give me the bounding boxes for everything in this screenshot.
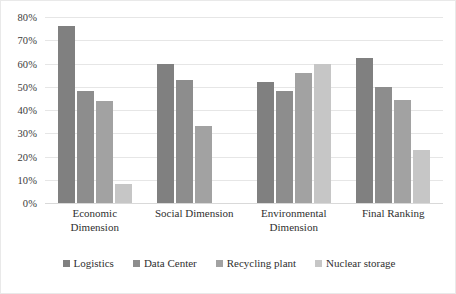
- bar[interactable]: [77, 91, 94, 203]
- legend-swatch-icon: [133, 260, 140, 267]
- legend-item[interactable]: Nuclear storage: [315, 257, 395, 269]
- legend-label: Logistics: [74, 257, 114, 269]
- bar[interactable]: [115, 184, 132, 203]
- legend-item[interactable]: Recycling plant: [216, 257, 296, 269]
- x-axis-category-label: Environmental Dimension: [244, 206, 344, 234]
- x-axis-category-label: Social Dimension: [145, 206, 245, 234]
- bar[interactable]: [176, 80, 193, 203]
- bar[interactable]: [356, 58, 373, 203]
- bar[interactable]: [375, 87, 392, 203]
- bar-group: [244, 17, 344, 203]
- x-axis: Economic DimensionSocial DimensionEnviro…: [45, 206, 443, 234]
- bar-group: [344, 17, 444, 203]
- bar-chart-figure: 80%70%60%50%40%30%20%10%0% Economic Dime…: [0, 0, 456, 294]
- legend-swatch-icon: [216, 260, 223, 267]
- y-axis-tick-label: 80%: [17, 12, 37, 23]
- bar[interactable]: [96, 101, 113, 203]
- y-axis: 80%70%60%50%40%30%20%10%0%: [1, 17, 41, 203]
- y-axis-tick-label: 20%: [17, 151, 37, 162]
- bar[interactable]: [58, 26, 75, 203]
- legend-label: Nuclear storage: [326, 257, 395, 269]
- gridline: [45, 203, 443, 204]
- x-axis-category-label: Economic Dimension: [45, 206, 145, 234]
- bar[interactable]: [276, 91, 293, 203]
- y-axis-tick-label: 70%: [17, 35, 37, 46]
- bar-group: [45, 17, 145, 203]
- bar-group: [145, 17, 245, 203]
- bar[interactable]: [157, 64, 174, 204]
- y-axis-tick-label: 60%: [17, 58, 37, 69]
- y-axis-tick-label: 50%: [17, 81, 37, 92]
- legend-item[interactable]: Logistics: [63, 257, 114, 269]
- bar[interactable]: [257, 82, 274, 203]
- legend-label: Recycling plant: [227, 257, 296, 269]
- bar[interactable]: [195, 126, 212, 203]
- y-axis-tick-label: 40%: [17, 105, 37, 116]
- legend-label: Data Center: [144, 257, 197, 269]
- y-axis-tick-label: 10%: [17, 174, 37, 185]
- bar[interactable]: [413, 150, 430, 203]
- bar[interactable]: [314, 64, 331, 204]
- bar[interactable]: [295, 73, 312, 203]
- legend-swatch-icon: [315, 260, 322, 267]
- chart-legend: LogisticsData CenterRecycling plantNucle…: [1, 257, 456, 269]
- legend-swatch-icon: [63, 260, 70, 267]
- y-axis-tick-label: 0%: [23, 198, 37, 209]
- x-axis-category-label: Final Ranking: [344, 206, 444, 234]
- bar[interactable]: [394, 100, 411, 203]
- legend-item[interactable]: Data Center: [133, 257, 197, 269]
- y-axis-tick-label: 30%: [17, 128, 37, 139]
- bars-layer: [45, 17, 443, 203]
